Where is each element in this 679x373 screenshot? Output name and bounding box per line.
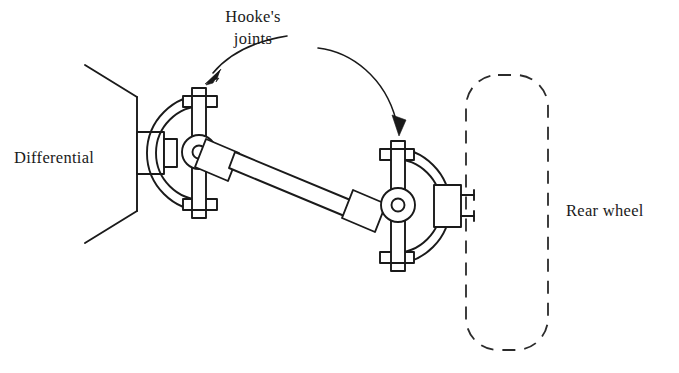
wheel-hub [434,185,474,227]
right-hub-outer [381,188,415,222]
differential-output-flange [137,132,164,174]
rear-wheel-label: Rear wheel [566,201,644,220]
right-lower-cap [391,263,405,271]
right-upper-cap [391,141,405,149]
diagram-canvas: Hooke's joints Differential Rear wheel [0,0,679,373]
differential-lower-arm [85,211,137,243]
wheel-hub-box [434,185,461,227]
hookes-joint-diagram: Hooke's joints Differential Rear wheel [0,0,679,373]
differential-housing [85,65,177,243]
drive-shaft-right-collar [342,190,386,232]
hookes-joints-label-line2: joints [233,29,272,48]
rear-wheel-shape [466,75,548,350]
rear-wheel-outline [466,75,548,350]
left-upper-cap [192,88,206,96]
differential-upper-arm [85,65,137,97]
right-arrowhead [392,115,406,136]
drive-shaft-tube [229,152,360,220]
differential-label: Differential [14,148,94,167]
differential-neck [164,139,177,167]
hookes-joints-label-line1: Hooke's [225,7,280,26]
right-leader-curve [318,48,396,120]
leader-arrow-to-right-joint [318,48,406,136]
left-lower-cap [192,210,206,218]
drive-shaft [195,139,386,232]
